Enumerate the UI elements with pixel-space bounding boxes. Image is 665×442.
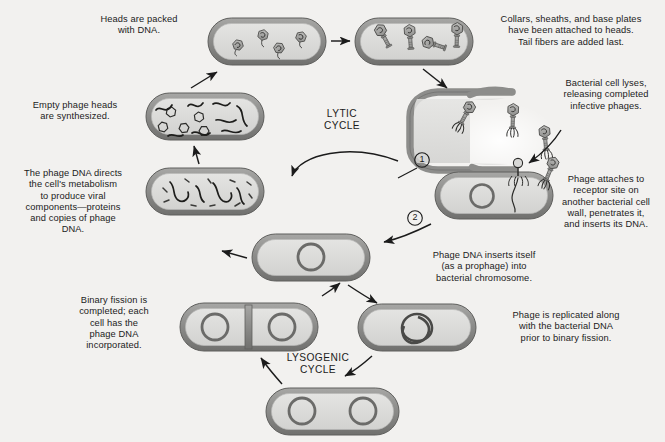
caption-phage-dna-directs: The phage DNA directs the cell's metabol…	[6, 168, 140, 236]
label-lytic-cycle: LYTIC CYCLE	[300, 108, 384, 133]
cell-dividing	[180, 303, 318, 351]
caption-phage-replicated: Phage is replicated along with the bacte…	[484, 310, 648, 344]
cell-prophage	[252, 234, 370, 281]
caption-prophage-inserts: Phage DNA inserts itself (as a prophage)…	[404, 250, 564, 284]
arrow-infect-to-prophage	[384, 224, 431, 242]
cell-two-chromosomes	[266, 388, 399, 435]
arrow-dividing-to-prophage	[322, 283, 340, 296]
cell-assembled-phages	[355, 18, 473, 65]
caption-phage-attaches: Phage attaches to receptor site on anoth…	[548, 174, 664, 230]
cell-replicating	[358, 304, 476, 351]
caption-collars-sheaths: Collars, sheaths, and base plates have b…	[478, 14, 664, 48]
step-marker-2-label: 2	[407, 212, 423, 223]
cell-empty-heads	[146, 93, 264, 140]
caption-cell-lyses: Bacterial cell lyses, releasing complete…	[548, 78, 664, 112]
step-marker-1-label: 1	[414, 154, 430, 165]
arrow-infect-to-viral-lytic	[292, 152, 398, 176]
cell-lysing	[410, 90, 558, 178]
caption-heads-packed: Heads are packed with DNA.	[80, 14, 198, 37]
cell-viral-components	[146, 168, 264, 215]
caption-binary-fission: Binary fission is completed; each cell h…	[58, 295, 170, 351]
arrow-viral-to-empty	[194, 146, 199, 164]
arrow-prophage-to-viral	[222, 251, 247, 258]
step-1-leader	[398, 168, 417, 178]
arrow-empty-to-packed	[191, 72, 217, 88]
phage-cycle-diagram: Heads are packed with DNA. Collars, shea…	[0, 0, 665, 442]
cell-packed-heads	[208, 18, 326, 65]
caption-empty-heads: Empty phage heads are synthesized.	[14, 100, 136, 123]
arrow-assembled-to-lysis	[423, 69, 447, 88]
arrow-prophage-to-replicating	[348, 285, 377, 303]
label-lysogenic-cycle: LYSOGENIC CYCLE	[264, 352, 372, 377]
